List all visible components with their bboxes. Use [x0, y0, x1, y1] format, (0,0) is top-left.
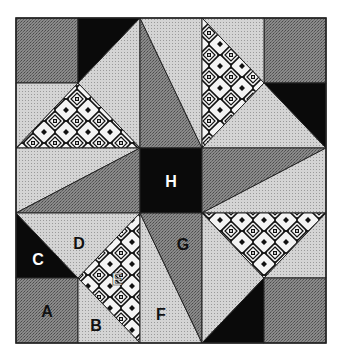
quilt-svg: A B C D E F G H — [0, 0, 340, 362]
label-b: B — [90, 317, 102, 334]
top-right-dark-square — [264, 18, 326, 83]
bottom-right-dark-square — [264, 278, 326, 343]
label-h: H — [165, 173, 177, 190]
label-e: E — [112, 271, 123, 288]
top-left-dark-square — [16, 18, 78, 83]
label-g: G — [177, 236, 189, 253]
label-a: A — [41, 303, 53, 320]
label-f: F — [156, 306, 166, 323]
quilt-block-diagram: A B C D E F G H — [0, 0, 340, 362]
label-d: D — [73, 235, 85, 252]
label-c: C — [32, 251, 44, 268]
